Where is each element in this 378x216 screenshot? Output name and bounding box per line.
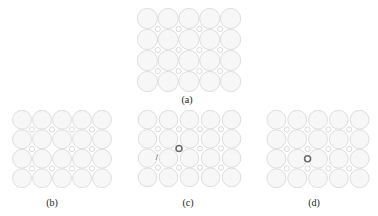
host-atom	[200, 50, 220, 70]
host-atom	[267, 169, 286, 188]
lattice-panel-b	[12, 110, 112, 188]
host-atom	[73, 149, 92, 168]
panel-label-d: (d)	[294, 197, 334, 209]
host-atom	[221, 50, 241, 70]
host-atom	[288, 110, 307, 129]
host-atom	[201, 130, 220, 149]
host-atom	[350, 149, 369, 168]
interstitial-atom	[218, 26, 223, 31]
host-atom	[13, 149, 32, 168]
host-atom	[53, 130, 72, 149]
host-atom	[53, 110, 72, 129]
panel-label-a: (a)	[167, 94, 207, 106]
host-atom	[201, 149, 220, 168]
interstitial-atom	[197, 47, 202, 52]
host-atom	[159, 110, 178, 129]
interstitial-atom	[347, 166, 352, 171]
interstitial-atom	[49, 127, 54, 132]
host-atom	[288, 130, 307, 149]
interstitial-atom	[218, 127, 223, 132]
host-atom	[221, 8, 241, 28]
host-atom	[350, 110, 369, 129]
interstitial-atom	[197, 68, 202, 73]
host-atom	[158, 29, 178, 49]
interstitial-atom	[218, 47, 223, 52]
host-atom	[53, 169, 72, 188]
host-atom	[222, 130, 241, 149]
host-atom	[33, 169, 52, 188]
host-atom	[222, 149, 241, 168]
interstitial-atom	[176, 127, 181, 132]
interstitial-atom	[49, 166, 54, 171]
interstitial-atom	[29, 146, 34, 151]
interstitial-atom	[197, 26, 202, 31]
host-atom	[200, 29, 220, 49]
interstitial-atom	[29, 127, 34, 132]
host-atom	[201, 168, 220, 187]
interstitial-atom	[347, 127, 352, 132]
host-atom	[138, 149, 157, 168]
defect-atom	[176, 146, 182, 152]
host-atom	[33, 130, 52, 149]
interstitial-atom	[69, 166, 74, 171]
host-atom	[179, 29, 199, 49]
interstitial-atom	[29, 166, 34, 171]
interstitial-atom	[89, 127, 94, 132]
host-atom	[309, 110, 328, 129]
host-atom	[329, 169, 348, 188]
host-atom	[222, 110, 241, 129]
host-atom	[137, 29, 157, 49]
panel-label-c: (c)	[168, 197, 208, 209]
interstitial-atom	[218, 68, 223, 73]
lattice-panel-c	[137, 110, 242, 187]
interstitial-atom	[197, 127, 202, 132]
interstitial-atom	[326, 127, 331, 132]
interstitial-atom	[347, 146, 352, 151]
host-atom	[73, 110, 92, 129]
host-atom	[309, 130, 328, 149]
interstitial-atom	[197, 165, 202, 170]
interstitial-atom	[284, 127, 289, 132]
panel-label-b: (b)	[32, 197, 72, 209]
host-atom	[93, 110, 112, 129]
interstitial-atom	[218, 146, 223, 151]
interstitial-atom	[176, 165, 181, 170]
host-atom	[159, 168, 178, 187]
interstitial-atom	[305, 127, 310, 132]
host-atom	[93, 149, 112, 168]
host-atom	[158, 50, 178, 70]
interstitial-atom	[155, 146, 160, 151]
host-atom	[180, 168, 199, 187]
host-atom	[138, 130, 157, 149]
host-atom	[200, 8, 220, 28]
interstitial-atom	[176, 68, 181, 73]
interstitial-atom	[89, 166, 94, 171]
host-atom	[222, 168, 241, 187]
host-atom	[137, 71, 157, 91]
host-atom	[13, 130, 32, 149]
interstitial-atom	[155, 47, 160, 52]
host-atom	[350, 130, 369, 149]
defect-atom	[305, 156, 311, 162]
host-atom	[267, 130, 286, 149]
interstitial-atom	[155, 127, 160, 132]
host-atom	[159, 130, 178, 149]
host-atom	[33, 110, 52, 129]
interstitial-atom	[155, 26, 160, 31]
interstitial-atom	[155, 165, 160, 170]
interstitial-atom	[69, 127, 74, 132]
host-atom	[13, 110, 32, 129]
host-atom	[221, 71, 241, 91]
interstitial-atom	[305, 166, 310, 171]
host-atom	[13, 169, 32, 188]
interstitial-atom	[218, 165, 223, 170]
host-atom	[288, 169, 307, 188]
host-atom	[33, 149, 52, 168]
interstitial-atom	[155, 68, 160, 73]
host-atom	[158, 8, 178, 28]
host-atom	[137, 8, 157, 28]
interstitial-atom	[89, 146, 94, 151]
host-atom	[309, 169, 328, 188]
host-atom	[200, 71, 220, 91]
host-atom	[267, 110, 286, 129]
